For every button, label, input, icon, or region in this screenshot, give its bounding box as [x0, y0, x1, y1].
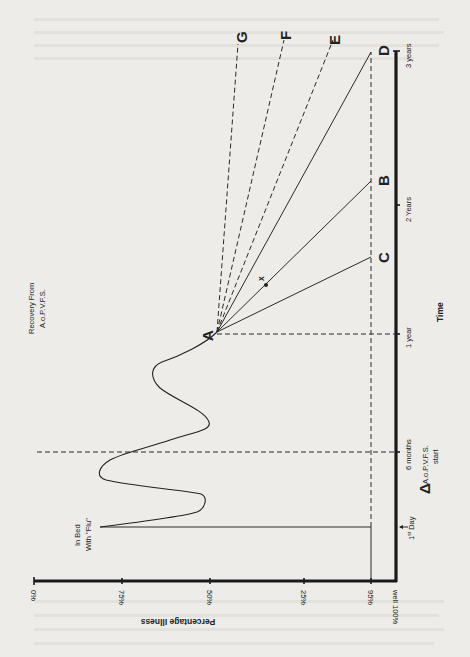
point-f-label: F: [277, 31, 294, 40]
book-page: 0% 75% 50% 25% 95% well 100% Percentage …: [0, 0, 470, 657]
recovery-chart: 0% 75% 50% 25% 95% well 100% Percentage …: [0, 0, 470, 657]
tick-label-2-years: 2 Years: [404, 197, 413, 222]
tick-label-1-year: 1 year: [404, 327, 413, 348]
tick-label-0: 0%: [29, 590, 38, 601]
time-tick-labels: 1st Day 6 months 1 year 2 Years 3 years: [404, 43, 416, 540]
point-x-label: x: [256, 276, 266, 281]
point-b-label: B: [375, 175, 392, 186]
illness-curve: [99, 332, 217, 527]
tick-label-25: 25%: [299, 590, 308, 605]
line-a-b: [217, 181, 371, 332]
onset-label-line2: start: [431, 448, 440, 464]
tick-label-3-years: 3 years: [404, 43, 413, 68]
line-a-c: [217, 257, 371, 332]
bleed-through-text: [34, 18, 444, 645]
tick-label-75: 75%: [117, 590, 126, 605]
tick-label-95: 95%: [366, 590, 375, 605]
point-a-label: A: [199, 330, 216, 341]
recovery-lines: [217, 40, 371, 332]
line-a-d: [217, 52, 371, 332]
line-a-g: [217, 44, 238, 332]
point-d-label: D: [375, 45, 392, 56]
recovery-title-line2: A.o.P.V.F.S.: [38, 289, 47, 328]
tick-label-well-100: well 100%: [391, 589, 400, 625]
line-a-e: [217, 40, 333, 332]
tick-label-6-months: 6 months: [404, 439, 413, 470]
line-a-f: [217, 40, 284, 332]
onset-label-line1: A.o.P.V.F.S.: [421, 445, 430, 484]
point-c-label: C: [375, 252, 392, 263]
recovery-title-line1: Recovery From: [27, 283, 36, 334]
y-axis-title: Percentage Illness: [140, 617, 215, 627]
flu-label-line1: In Bed: [73, 524, 82, 546]
flu-label-line2: With "Flu": [84, 518, 93, 551]
point-e-label: E: [326, 35, 343, 45]
x-axis-title: Time: [435, 302, 445, 322]
tick-label-50: 50%: [205, 590, 214, 605]
point-x-marker: [264, 283, 268, 287]
tick-label-first-day: 1st Day: [406, 516, 416, 540]
point-g-label: G: [233, 31, 250, 43]
